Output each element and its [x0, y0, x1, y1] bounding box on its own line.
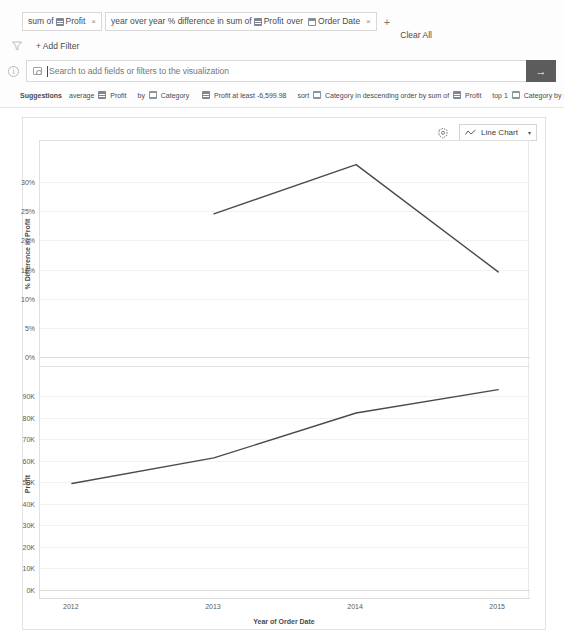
add-chip-button[interactable]: +: [380, 15, 394, 29]
suggestion-text: sort: [297, 92, 311, 99]
y-axis-tick-label: 0%: [25, 354, 35, 361]
suggestion-item-2[interactable]: Profit at least -6,599.98: [200, 92, 288, 99]
clear-all-button[interactable]: Clear All: [400, 30, 432, 40]
funnel-icon[interactable]: [12, 41, 22, 51]
suggestion-field-text: Profit at least -6,599.98: [212, 92, 288, 99]
y-axis-tick-label: 30K: [23, 522, 35, 529]
chip-field-name: Profit: [264, 13, 284, 30]
text-caret: [47, 66, 48, 77]
chip-field-name-2: Order Date: [318, 13, 360, 30]
visualization-card: Line Chart ▾ % Difference in Profit 0%5%…: [22, 117, 546, 630]
x-axis-tick-label: 2015: [489, 603, 505, 610]
suggestion-item-3[interactable]: sort Category in descending order by sum…: [297, 92, 483, 99]
x-axis-title: Year of Order Date: [39, 618, 529, 625]
y-axis-tick-label: 15%: [21, 266, 35, 273]
y-axis-tick-label: 10K: [23, 565, 35, 572]
y-axis-tick-label: 10%: [21, 295, 35, 302]
search-input[interactable]: [49, 66, 520, 76]
category-field-icon: [512, 91, 520, 99]
y-axis-tick-label: 60K: [23, 457, 35, 464]
y-axis-tick-label: 20%: [21, 237, 35, 244]
chart-type-dropdown[interactable]: Line Chart ▾: [459, 124, 537, 141]
chip-field-name: Profit: [66, 13, 86, 30]
suggestions-label: Suggestions: [20, 92, 62, 99]
chip-mid-text: over: [287, 13, 304, 30]
y-axis-tick-label: 0K: [26, 587, 35, 594]
category-field-icon: [313, 91, 321, 99]
y-axis-title-percent-difference: % Difference in Profit: [24, 219, 31, 290]
chip-prefix: year over year % difference in sum of: [111, 13, 252, 30]
x-axis-tick-label: 2013: [205, 603, 221, 610]
suggestion-field-text: Profit: [108, 92, 128, 99]
add-filter-button[interactable]: + Add Filter: [36, 41, 79, 51]
y-axis-tick-label: 70K: [23, 436, 35, 443]
x-axis: 2012201320142015 Year of Order Date: [39, 601, 529, 631]
search-box[interactable]: [26, 60, 527, 82]
suggestion-text: average: [69, 92, 96, 99]
plot-area: % Difference in Profit 0%5%10%15%20%25%3…: [23, 140, 547, 631]
suggestion-field-text: Category in descending order by sum of: [323, 92, 451, 99]
suggestion-text: by: [138, 92, 147, 99]
search-field-icon: [33, 67, 42, 75]
y-axis-tick-label: 20K: [23, 543, 35, 550]
filter-row: + Add Filter: [12, 41, 79, 51]
info-icon[interactable]: i: [8, 66, 19, 77]
y-axis-tick-label: 50K: [23, 479, 35, 486]
chart-panel-profit[interactable]: Profit 0K10K20K30K40K50K60K70K80K90K: [40, 366, 530, 599]
chip-prefix: sum of: [28, 13, 54, 30]
category-field-icon: [149, 91, 157, 99]
search-row: i →: [8, 60, 556, 82]
y-axis-tick-label: 25%: [21, 208, 35, 215]
numeric-field-icon: [56, 18, 64, 26]
y-axis-tick-label: 80K: [23, 414, 35, 421]
query-chip-sum-of-profit[interactable]: sum of Profit ×: [22, 12, 102, 31]
suggestion-field-text: Profit: [463, 92, 483, 99]
chip-remove-icon[interactable]: ×: [91, 13, 96, 30]
suggestions-row: Suggestions average Profit by Category P…: [20, 91, 556, 99]
suggestion-items: average Profit by Category Profit at lea…: [69, 91, 564, 99]
y-axis-tick-label: 5%: [25, 324, 35, 331]
numeric-field-icon: [453, 91, 461, 99]
suggestion-item-1[interactable]: by Category: [138, 92, 192, 99]
chevron-down-icon: ▾: [528, 129, 531, 136]
numeric-field-icon: [254, 18, 262, 26]
chart-toolbar: Line Chart ▾: [437, 124, 537, 141]
suggestion-text: top 1: [492, 92, 510, 99]
x-axis-tick-label: 2014: [347, 603, 363, 610]
y-axis-tick-label: 90K: [23, 393, 35, 400]
x-axis-tick-label: 2012: [63, 603, 79, 610]
plot-frame: % Difference in Profit 0%5%10%15%20%25%3…: [39, 140, 529, 599]
search-submit-button[interactable]: →: [526, 60, 556, 82]
numeric-field-icon: [202, 91, 210, 99]
line-series: [40, 367, 530, 598]
suggestion-field-text: Category: [159, 92, 191, 99]
query-chip-yoy-difference[interactable]: year over year % difference in sum of Pr…: [105, 12, 377, 31]
suggestion-item-0[interactable]: average Profit: [69, 92, 128, 99]
y-axis-tick-label: 40K: [23, 500, 35, 507]
chart-panel-percent-difference[interactable]: % Difference in Profit 0%5%10%15%20%25%3…: [40, 140, 530, 366]
search-toolbar: sum of Profit × year over year % differe…: [0, 0, 564, 108]
suggestion-item-4[interactable]: top 1 Category by sum of Profit: [492, 92, 564, 99]
chip-remove-icon[interactable]: ×: [366, 13, 371, 30]
chart-settings-icon[interactable]: [437, 126, 449, 139]
query-chip-row: sum of Profit × year over year % differe…: [22, 12, 394, 31]
suggestion-field-text: Category by sum of: [522, 92, 564, 99]
line-series: [40, 141, 530, 366]
chart-type-label: Line Chart: [481, 128, 522, 137]
line-chart-icon: [465, 129, 476, 136]
y-axis-tick-label: 30%: [21, 179, 35, 186]
date-field-icon: [308, 18, 316, 26]
numeric-field-icon: [98, 91, 106, 99]
